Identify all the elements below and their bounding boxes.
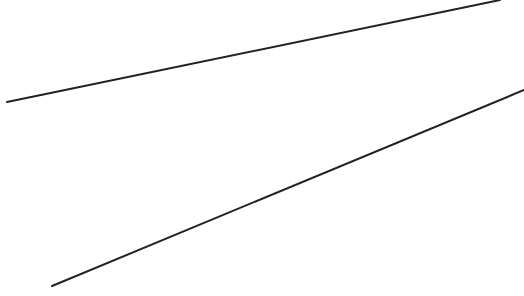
drawing-canvas — [0, 0, 524, 296]
upper-line — [7, 0, 500, 102]
lower-line — [52, 90, 524, 286]
lines-svg — [0, 0, 524, 296]
